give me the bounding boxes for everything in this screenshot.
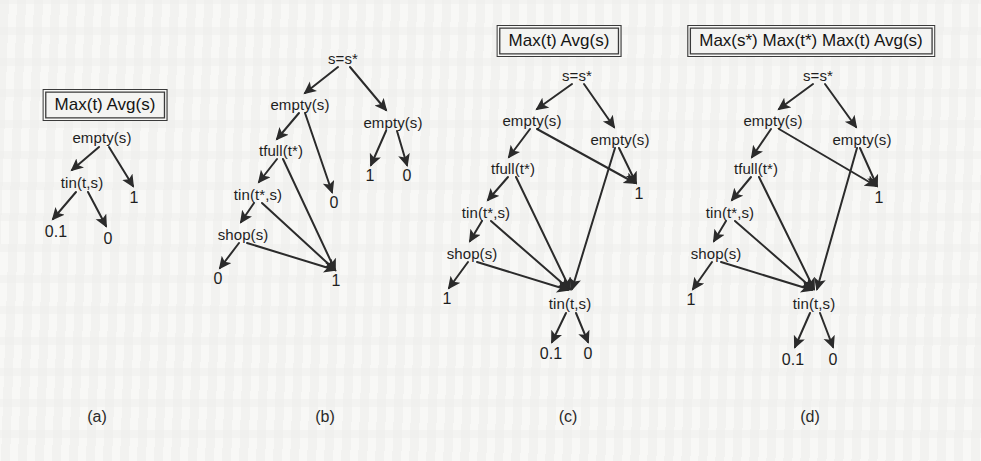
edge-c-tin-tstar-s-to-shop-s bbox=[470, 221, 482, 241]
node-c-one-right: 1 bbox=[635, 186, 644, 202]
node-c-tin-tstar-s: tin(t*,s) bbox=[462, 205, 510, 220]
edge-b-tin-tstar-s-to-shop-s bbox=[241, 203, 254, 222]
edge-d-tin-t-s-to-zero-one bbox=[795, 313, 810, 347]
node-b-empty-s-right: empty(s) bbox=[363, 115, 422, 130]
node-c-tfull-tstar: tfull(t*) bbox=[491, 161, 535, 176]
edge-d-tin-tstar-s-to-shop-s bbox=[714, 221, 726, 241]
node-b-one-bottom: 1 bbox=[332, 273, 341, 289]
edge-a-tin-t-s-to-zero-one bbox=[53, 192, 76, 219]
node-a-zero: 0 bbox=[104, 231, 113, 247]
edge-c-tin-tstar-s-to-tin-t-s bbox=[491, 221, 569, 289]
edge-c-s-eq-sstar-to-empty-s-left bbox=[537, 84, 572, 109]
node-c-tin-t-s: tin(t,s) bbox=[549, 296, 591, 311]
panel-b-caption: (b) bbox=[315, 409, 335, 425]
edge-b-s-eq-sstar-to-empty-s-right bbox=[350, 67, 386, 110]
edge-layer bbox=[0, 0, 981, 461]
node-d-tfull-tstar: tfull(t*) bbox=[734, 161, 778, 176]
node-c-shop-s: shop(s) bbox=[447, 246, 498, 261]
node-d-one-bottom: 1 bbox=[687, 292, 696, 308]
edge-b-empty-s-right-to-zero-right bbox=[397, 131, 407, 165]
node-b-one-right: 1 bbox=[366, 168, 375, 184]
edge-c-empty-s-right-to-one-right bbox=[619, 148, 636, 183]
edge-d-shop-s-to-tin-t-s bbox=[721, 262, 812, 290]
node-d-empty-s-right: empty(s) bbox=[832, 132, 891, 147]
edge-c-tfull-tstar-to-tin-t-s bbox=[516, 177, 570, 289]
edge-a-empty-s-to-tin-t-s bbox=[72, 147, 99, 170]
node-a-zero-one: 0.1 bbox=[45, 224, 68, 240]
edge-c-s-eq-sstar-to-empty-s-right bbox=[584, 84, 614, 127]
edge-b-tfull-tstar-to-tin-tstar-s bbox=[259, 159, 277, 182]
edge-c-tin-t-s-to-zero bbox=[576, 313, 588, 342]
node-c-empty-s-right: empty(s) bbox=[590, 132, 649, 147]
edge-c-shop-s-to-tin-t-s bbox=[477, 262, 568, 290]
edge-d-shop-s-to-one-bottom bbox=[693, 262, 712, 289]
edge-b-empty-s-left-to-zero-mid bbox=[305, 113, 332, 192]
node-a-tin-t-s: tin(t,s) bbox=[61, 175, 103, 190]
edge-b-tfull-tstar-to-one-bottom bbox=[283, 159, 335, 270]
node-d-shop-s: shop(s) bbox=[691, 246, 742, 261]
figure-canvas: Max(t) Avg(s)empty(s)tin(t,s)10.10(a)s=s… bbox=[0, 0, 981, 461]
edge-d-s-eq-sstar-to-empty-s-left bbox=[779, 84, 813, 109]
node-b-shop-s: shop(s) bbox=[218, 227, 269, 242]
node-d-zero-one: 0.1 bbox=[782, 352, 805, 368]
node-d-empty-s-left: empty(s) bbox=[743, 113, 802, 128]
edge-d-tin-tstar-s-to-tin-t-s bbox=[735, 221, 813, 289]
edge-d-empty-s-right-to-one-right bbox=[860, 148, 877, 186]
edge-c-empty-s-left-to-tfull-tstar bbox=[509, 129, 530, 157]
node-b-empty-s-left: empty(s) bbox=[270, 97, 329, 112]
node-a-one: 1 bbox=[130, 190, 139, 206]
panel-a-objective-box: Max(t) Avg(s) bbox=[43, 89, 168, 121]
edge-b-tin-tstar-s-to-one-bottom bbox=[262, 203, 335, 270]
node-b-zero-mid: 0 bbox=[330, 195, 339, 211]
node-a-empty-s: empty(s) bbox=[72, 130, 131, 145]
edge-c-tfull-tstar-to-tin-tstar-s bbox=[488, 177, 508, 200]
node-b-zero-bottom: 0 bbox=[214, 271, 223, 287]
edge-b-empty-s-right-to-one-right bbox=[371, 131, 386, 165]
node-c-s-eq-sstar: s=s* bbox=[562, 68, 592, 83]
edge-b-shop-s-to-zero-bottom bbox=[220, 243, 239, 268]
edge-d-tfull-tstar-to-tin-t-s bbox=[759, 177, 814, 289]
edge-d-tin-t-s-to-zero bbox=[820, 313, 833, 347]
edge-c-empty-s-right-to-tin-t-s bbox=[572, 148, 615, 289]
edge-d-empty-s-right-to-tin-t-s bbox=[817, 148, 857, 289]
node-d-zero: 0 bbox=[829, 352, 838, 368]
edge-a-tin-t-s-to-zero bbox=[88, 192, 106, 226]
node-d-s-eq-sstar: s=s* bbox=[803, 68, 833, 83]
panel-d-objective-box: Max(s*) Max(t*) Max(t) Avg(s) bbox=[687, 25, 935, 57]
scan-background-texture bbox=[0, 0, 981, 461]
edge-d-s-eq-sstar-to-empty-s-right bbox=[825, 84, 856, 127]
edge-c-tin-t-s-to-zero-one bbox=[552, 313, 566, 342]
node-d-tin-t-s: tin(t,s) bbox=[793, 296, 835, 311]
node-b-zero-right: 0 bbox=[403, 168, 412, 184]
node-c-one-bottom: 1 bbox=[443, 291, 452, 307]
node-c-zero: 0 bbox=[584, 346, 593, 362]
node-b-tin-tstar-s: tin(t*,s) bbox=[234, 187, 282, 202]
node-d-tin-tstar-s: tin(t*,s) bbox=[706, 205, 754, 220]
panel-d-caption: (d) bbox=[800, 409, 820, 425]
panel-a-caption: (a) bbox=[87, 409, 107, 425]
edge-d-empty-s-left-to-tfull-tstar bbox=[752, 129, 771, 157]
edge-d-tfull-tstar-to-tin-tstar-s bbox=[732, 177, 751, 200]
panel-c-objective-box: Max(t) Avg(s) bbox=[497, 25, 622, 57]
node-d-one-right: 1 bbox=[875, 190, 884, 206]
edge-a-empty-s-to-one bbox=[109, 147, 133, 186]
node-b-s-eq-sstar: s=s* bbox=[328, 51, 358, 66]
edge-c-shop-s-to-one-bottom bbox=[449, 262, 468, 288]
node-c-empty-s-left: empty(s) bbox=[502, 113, 561, 128]
edge-b-shop-s-to-one-bottom bbox=[247, 243, 335, 270]
edge-b-empty-s-left-to-tfull-tstar bbox=[277, 113, 299, 139]
panel-c-caption: (c) bbox=[559, 409, 578, 425]
node-c-zero-one: 0.1 bbox=[540, 346, 563, 362]
edge-b-s-eq-sstar-to-empty-s-left bbox=[305, 67, 338, 93]
node-b-tfull-tstar: tfull(t*) bbox=[259, 143, 303, 158]
